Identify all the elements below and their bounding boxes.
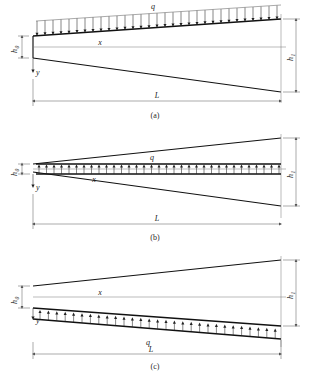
y-axis-label-c: y	[35, 316, 40, 325]
beam-bottom-edge-a	[33, 58, 281, 92]
svg-text:h: h	[286, 295, 295, 299]
x-axis-label-a: x	[97, 38, 102, 47]
svg-text:h: h	[286, 57, 295, 61]
panel-b: q x y h 0 h 1 L	[0, 128, 310, 250]
h1-label-b: h 1	[286, 171, 296, 179]
load-label-b: q	[150, 153, 154, 162]
caption-b: (b)	[0, 233, 310, 242]
svg-text:0: 0	[14, 46, 20, 49]
y-axis-label-b: y	[35, 183, 40, 192]
panel-c-geometry	[33, 256, 286, 347]
x-axis-label-c: x	[97, 288, 102, 297]
L-label-b: L	[154, 214, 160, 223]
y-axis-label-a: y	[35, 68, 40, 77]
beam-top-edge-c	[33, 260, 281, 286]
load-arrowheads-b	[38, 164, 281, 167]
beam-bottom-edge-b	[33, 172, 281, 206]
svg-text:h: h	[10, 49, 19, 53]
L-label-c: L	[148, 345, 154, 354]
svg-text:1: 1	[290, 54, 296, 57]
svg-text:h: h	[10, 172, 19, 176]
svg-text:h: h	[286, 174, 295, 178]
load-arrows-c	[40, 312, 275, 339]
svg-text:0: 0	[14, 169, 20, 172]
load-arrows-a	[37, 6, 277, 35]
panel-a: q y x h 0 h 1 L	[0, 0, 310, 128]
svg-text:h: h	[10, 300, 19, 304]
h1-label-a: h 1	[286, 54, 296, 62]
caption-c: (c)	[0, 362, 310, 371]
panel-c: q x y h 0 h 1 L	[0, 250, 310, 379]
h0-label-a: h 0	[10, 46, 20, 54]
load-band-top-c	[33, 308, 281, 326]
h1-label-c: h 1	[286, 292, 296, 300]
L-label-a: L	[154, 91, 160, 100]
h0-label-c: h 0	[10, 297, 20, 305]
svg-text:1: 1	[290, 292, 296, 295]
caption-a: (a)	[0, 111, 310, 120]
load-label-a: q	[151, 2, 155, 11]
svg-text:1: 1	[290, 171, 296, 174]
panel-a-geometry	[33, 14, 286, 103]
x-axis-label-b: x	[91, 175, 96, 184]
beam-top-edge-b	[33, 138, 281, 164]
panel-b-geometry	[33, 134, 281, 218]
h0-label-b: h 0	[10, 169, 20, 177]
svg-text:0: 0	[14, 297, 20, 300]
